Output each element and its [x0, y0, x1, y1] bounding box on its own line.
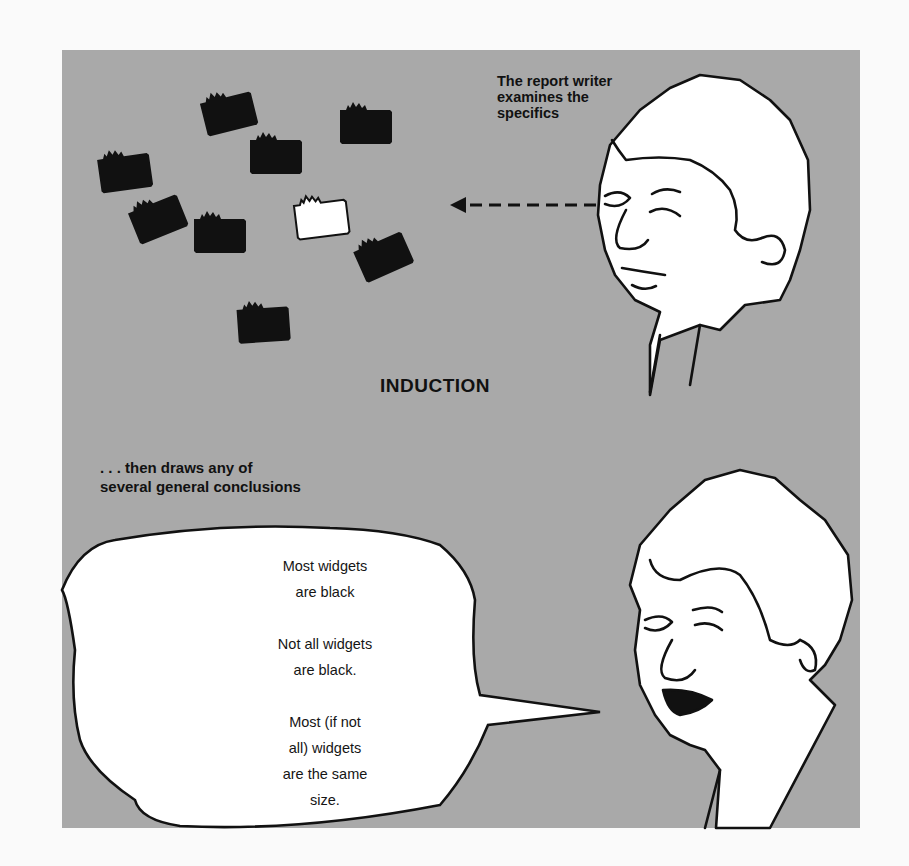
speech-bubble-text: Most widgets are black Not all widgets a…: [200, 553, 450, 813]
conclusion-3: Most (if not all) widgets are the same s…: [200, 709, 450, 813]
middle-caption-line: . . . then draws any of: [100, 458, 360, 477]
conclusion-line: all) widgets: [200, 735, 450, 761]
black-widget-icon: [194, 211, 246, 253]
conclusion-line: are the same: [200, 761, 450, 787]
gaze-arrow-icon: [450, 197, 600, 213]
induction-illustration: [0, 0, 909, 866]
black-widget-icon: [198, 83, 259, 136]
report-writer-observing-icon: [598, 75, 810, 395]
black-widget-icon: [350, 224, 415, 284]
report-writer-speaking-icon: [630, 470, 852, 828]
black-widget-icon: [250, 132, 302, 174]
conclusion-2: Not all widgets are black.: [200, 631, 450, 683]
middle-caption-line: several general conclusions: [100, 477, 360, 496]
middle-caption: . . . then draws any of several general …: [100, 458, 360, 496]
black-widget-icon: [125, 187, 189, 245]
black-widget-icon: [340, 102, 392, 144]
conclusion-line: are black: [200, 579, 450, 605]
diagram-title: INDUCTION: [380, 375, 490, 397]
conclusion-line: Most (if not: [200, 709, 450, 735]
widget-group: [96, 83, 415, 343]
white-widget-icon: [293, 192, 350, 240]
top-caption-line: The report writer: [497, 73, 667, 89]
top-caption: The report writer examines the specifics: [497, 73, 667, 121]
top-caption-line: specifics: [497, 105, 667, 121]
black-widget-icon: [236, 298, 291, 344]
black-widget-icon: [96, 145, 153, 194]
conclusion-line: size.: [200, 787, 450, 813]
top-caption-line: examines the: [497, 89, 667, 105]
conclusion-1: Most widgets are black: [200, 553, 450, 605]
conclusion-line: Most widgets: [200, 553, 450, 579]
conclusion-line: are black.: [200, 657, 450, 683]
conclusion-line: Not all widgets: [200, 631, 450, 657]
